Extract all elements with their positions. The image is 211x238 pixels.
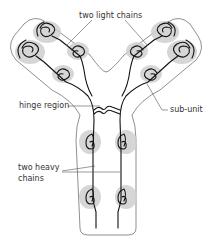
heavy-chains <box>36 56 178 228</box>
label-sub-unit: sub-unit <box>170 105 203 114</box>
label-light-chains: two light chains <box>79 11 142 20</box>
leader-heavy-left <box>62 166 95 171</box>
label-hinge-region: hinge region <box>19 101 69 110</box>
antibody-diagram: two light chains hinge region sub-unit t… <box>0 0 211 238</box>
label-heavy-chains-1: two heavy <box>18 163 60 172</box>
label-heavy-chains-2: chains <box>18 174 44 183</box>
light-chains <box>52 36 162 96</box>
